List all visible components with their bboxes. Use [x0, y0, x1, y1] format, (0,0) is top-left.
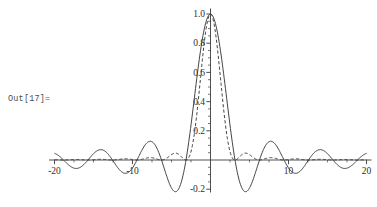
mathematica-output-cell: Out[17]= -20-101020-0.20.20.40.60.81.0: [0, 0, 377, 207]
x-ticks: -20-101020: [48, 160, 371, 176]
y-ticks: -0.20.20.40.60.81.0: [190, 9, 211, 194]
y-tick-label: 0.6: [193, 68, 205, 78]
y-tick-label: 0.8: [193, 38, 205, 48]
y-tick-label: 0.4: [193, 97, 205, 107]
sinc-plot-canvas: -20-101020-0.20.20.40.60.81.0: [0, 0, 377, 207]
y-tick-label: -0.2: [190, 184, 205, 194]
x-tick-label: 10: [284, 166, 294, 176]
x-tick-label: -20: [48, 166, 61, 176]
y-tick-label: 1.0: [193, 9, 205, 19]
x-tick-label: 20: [362, 166, 372, 176]
